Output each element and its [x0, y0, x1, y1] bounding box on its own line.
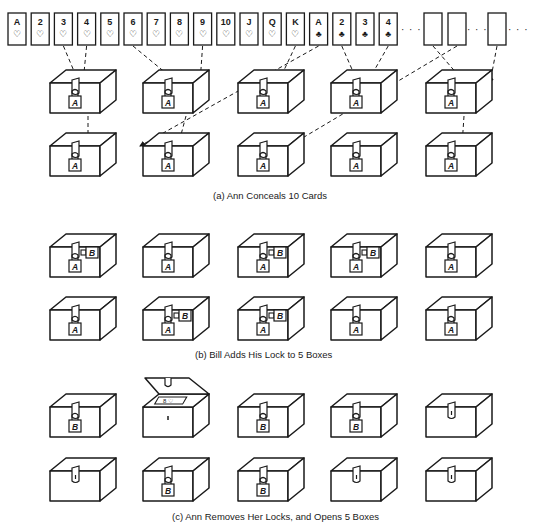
playing-card-6-heart: 6♡: [124, 13, 142, 45]
svg-text:A: A: [259, 325, 266, 335]
playing-card-2-club: 2♣: [333, 13, 351, 45]
playing-card-9-heart: 9♡: [194, 13, 212, 45]
svg-text:A: A: [259, 98, 266, 108]
svg-text:A: A: [71, 325, 78, 335]
locked-box: [426, 394, 492, 437]
heart-icon: ♡: [129, 29, 137, 39]
locked-box: AB: [331, 234, 397, 277]
cards-inside: 8 ♡: [163, 398, 173, 404]
hasp-icon: [165, 378, 171, 387]
open-box: 8 ♡: [143, 378, 209, 437]
svg-text:7: 7: [154, 17, 159, 27]
caption-panel-c: (c) Ann Removes Her Locks, and Opens 5 B…: [172, 511, 379, 522]
svg-text:3: 3: [61, 17, 66, 27]
svg-text:A: A: [259, 161, 266, 171]
playing-card-A-heart: A♡: [8, 13, 26, 45]
svg-text:3: 3: [362, 17, 367, 27]
ellipsis: · · ·: [401, 24, 422, 35]
svg-text:10: 10: [221, 17, 231, 27]
locked-box: A: [238, 70, 304, 113]
heart-icon: ♡: [83, 29, 91, 39]
svg-text:5: 5: [107, 17, 112, 27]
svg-text:B: B: [260, 422, 266, 432]
svg-text:K: K: [292, 17, 299, 27]
locked-box: B: [331, 394, 397, 437]
svg-text:B: B: [182, 311, 188, 321]
svg-text:6: 6: [130, 17, 135, 27]
svg-text:A: A: [71, 161, 78, 171]
svg-text:9: 9: [200, 17, 205, 27]
playing-card-J-heart: J♡: [240, 13, 258, 45]
playing-card-10-heart: 10♡: [217, 13, 235, 45]
svg-text:B: B: [165, 486, 171, 496]
svg-text:4: 4: [84, 17, 89, 27]
locked-box: B: [143, 458, 209, 501]
club-icon: ♣: [385, 29, 391, 39]
playing-card-4-club: 4♣: [379, 13, 397, 45]
locked-box: A: [50, 70, 116, 113]
svg-text:J: J: [246, 17, 251, 27]
ellipsis: · · ·: [467, 24, 488, 35]
playing-card-3-heart: 3♡: [54, 13, 72, 45]
heart-icon: ♡: [291, 29, 299, 39]
club-icon: ♣: [339, 29, 345, 39]
boxes: AAAAAAAAAAABAABABAAABABAAB8 ♡BBBB: [50, 70, 492, 501]
locked-box: AB: [238, 234, 304, 277]
caption-panel-b: (b) Bill Adds His Lock to 5 Boxes: [195, 349, 332, 360]
heart-icon: ♡: [36, 29, 44, 39]
heart-icon: ♡: [199, 29, 207, 39]
svg-text:A: A: [259, 262, 266, 272]
svg-text:B: B: [277, 311, 283, 321]
locked-box: [426, 458, 492, 501]
locked-box: A: [50, 297, 116, 340]
card-box-diagram: A♡2♡3♡4♡5♡6♡7♡8♡9♡10♡J♡Q♡K♡A♣2♣3♣4♣· · ·…: [0, 0, 539, 531]
locked-box: [50, 458, 116, 501]
svg-text:A: A: [71, 98, 78, 108]
svg-text:A: A: [447, 98, 454, 108]
heart-icon: ♡: [222, 29, 230, 39]
svg-text:B: B: [260, 486, 266, 496]
locked-box: A: [331, 133, 397, 176]
svg-text:A: A: [164, 325, 171, 335]
svg-text:A: A: [447, 161, 454, 171]
locked-box: A: [426, 234, 492, 277]
heart-icon: ♡: [152, 29, 160, 39]
hasp-icon: [353, 466, 360, 483]
locked-box: A: [143, 70, 209, 113]
playing-card-8-heart: 8♡: [170, 13, 188, 45]
svg-text:A: A: [315, 17, 322, 27]
locked-box: A: [331, 297, 397, 340]
svg-text:B: B: [353, 422, 359, 432]
svg-text:B: B: [370, 248, 376, 258]
playing-card-3-club: 3♣: [356, 13, 374, 45]
blank-card: [448, 13, 466, 45]
svg-text:A: A: [352, 262, 359, 272]
playing-card-5-heart: 5♡: [101, 13, 119, 45]
caption-panel-a: (a) Ann Conceals 10 Cards: [213, 190, 327, 201]
locked-box: A: [331, 70, 397, 113]
svg-text:A: A: [164, 161, 171, 171]
svg-text:B: B: [89, 248, 95, 258]
locked-box: [331, 458, 397, 501]
svg-text:A: A: [14, 17, 21, 27]
playing-card-2-heart: 2♡: [31, 13, 49, 45]
svg-text:4: 4: [386, 17, 391, 27]
hasp-icon: [448, 466, 455, 483]
svg-text:A: A: [352, 325, 359, 335]
heart-icon: ♡: [268, 29, 276, 39]
svg-text:A: A: [447, 262, 454, 272]
card-row: A♡2♡3♡4♡5♡6♡7♡8♡9♡10♡J♡Q♡K♡A♣2♣3♣4♣· · ·…: [8, 13, 529, 45]
blank-card: [488, 13, 506, 45]
locked-box: AB: [50, 234, 116, 277]
ellipsis: · · ·: [508, 24, 529, 35]
locked-box: AB: [238, 297, 304, 340]
svg-text:8: 8: [177, 17, 182, 27]
locked-box: A: [143, 234, 209, 277]
heart-icon: ♡: [106, 29, 114, 39]
svg-text:A: A: [352, 98, 359, 108]
heart-icon: ♡: [13, 29, 21, 39]
svg-text:B: B: [72, 422, 78, 432]
heart-icon: ♡: [175, 29, 183, 39]
svg-text:A: A: [71, 262, 78, 272]
svg-text:A: A: [164, 262, 171, 272]
